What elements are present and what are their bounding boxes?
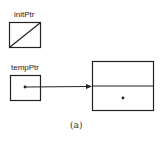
- list-node-box: [93, 62, 154, 111]
- initptr-box: [10, 23, 41, 48]
- arrowhead-icon: [86, 84, 92, 89]
- null-slash-icon: [10, 23, 40, 47]
- tempptr-label: tempPtr: [11, 63, 39, 72]
- tempptr-box: [11, 76, 41, 101]
- pointer-arrow: [25, 84, 92, 89]
- initptr-label: initPtr: [14, 10, 34, 19]
- figure-caption: (a): [70, 120, 82, 130]
- next-pointer-dot-icon: [122, 97, 125, 100]
